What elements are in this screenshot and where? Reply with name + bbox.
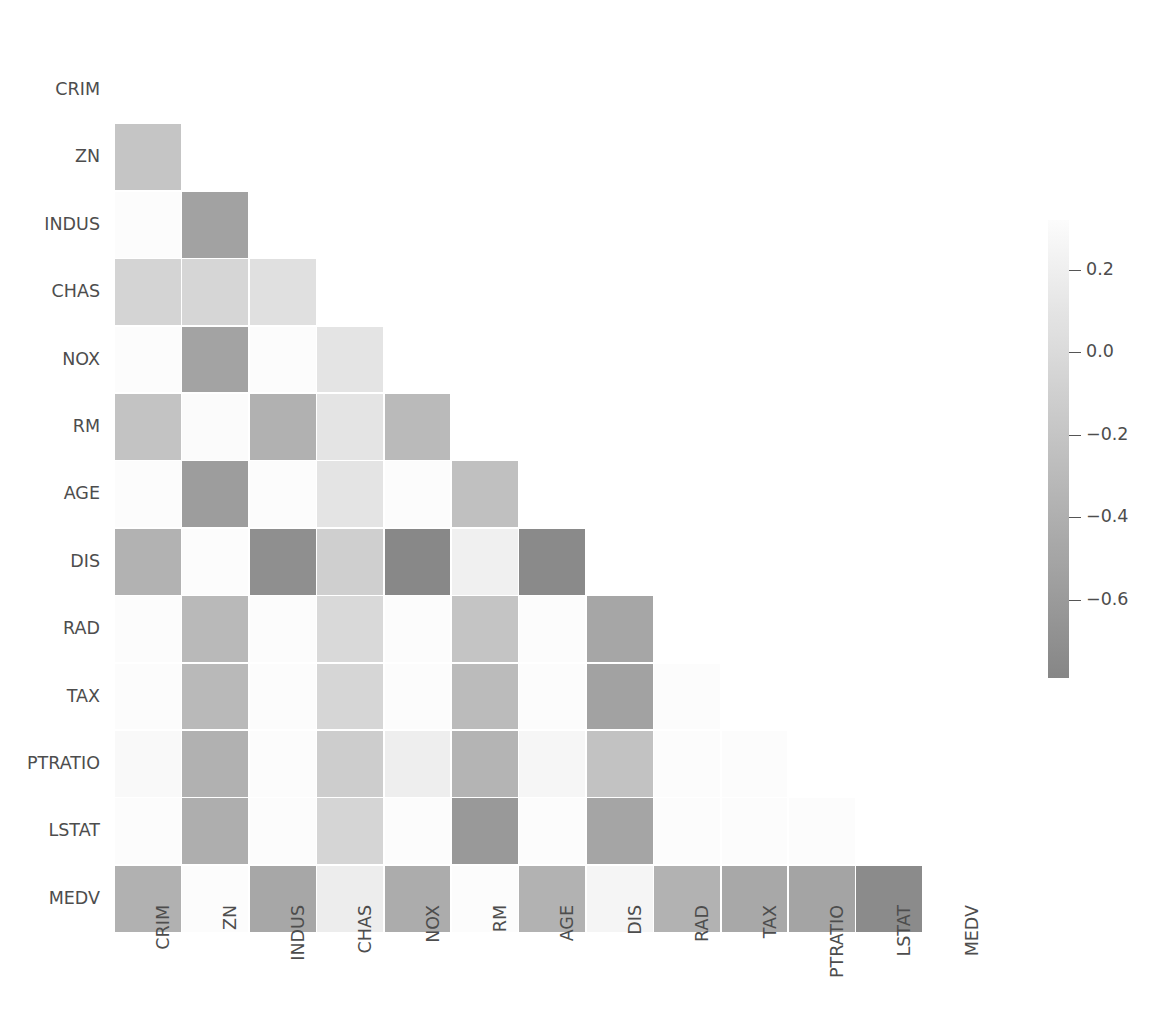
- heatmap-cell: [250, 394, 316, 460]
- heatmap-cell: [519, 798, 585, 864]
- heatmap-cell: [385, 596, 451, 662]
- heatmap-cell: [182, 596, 248, 662]
- heatmap-cell: [250, 664, 316, 730]
- x-axis-tick-label: AGE: [559, 905, 577, 941]
- heatmap-cell: [385, 798, 451, 864]
- x-axis-tick-label-text: TAX: [762, 905, 780, 938]
- heatmap-cell: [587, 798, 653, 864]
- heatmap-cell: [722, 798, 788, 864]
- colorbar: 0.20.0−0.2−0.4−0.6: [1048, 220, 1069, 678]
- heatmap-cell: [182, 529, 248, 595]
- heatmap-cell: [182, 394, 248, 460]
- x-axis-tick-label: CRIM: [155, 905, 173, 950]
- heatmap-cell: [115, 124, 181, 190]
- x-axis-tick-label-text: CHAS: [357, 905, 375, 953]
- x-axis-tick-label: RAD: [694, 905, 712, 942]
- heatmap-cell: [385, 664, 451, 730]
- heatmap-cell: [789, 798, 855, 864]
- heatmap-cell: [250, 731, 316, 797]
- y-axis-tick-label: MEDV: [0, 890, 100, 908]
- colorbar-tick-mark: [1069, 352, 1081, 353]
- y-axis-tick-label: LSTAT: [0, 822, 100, 840]
- y-axis-tick-label: TAX: [0, 688, 100, 706]
- y-axis-tick-label: DIS: [0, 553, 100, 571]
- x-axis-tick-label: DIS: [627, 905, 645, 935]
- colorbar-tick-mark: [1069, 517, 1081, 518]
- heatmap-cell: [317, 596, 383, 662]
- heatmap-cell: [115, 394, 181, 460]
- heatmap-cell: [182, 259, 248, 325]
- x-axis-tick-label: MEDV: [964, 905, 982, 956]
- correlation-heatmap-figure: CRIMZNINDUSCHASNOXRMAGEDISRADTAXPTRATIOL…: [0, 0, 1149, 1024]
- heatmap-cell: [587, 731, 653, 797]
- x-axis-tick-label-text: CRIM: [155, 905, 173, 950]
- colorbar-tick-label: 0.0: [1086, 343, 1114, 361]
- heatmap-cell: [452, 731, 518, 797]
- x-axis-tick-label: CHAS: [357, 905, 375, 953]
- y-axis-tick-label: NOX: [0, 351, 100, 369]
- y-axis-tick-label: INDUS: [0, 216, 100, 234]
- heatmap-cell: [317, 798, 383, 864]
- x-axis-tick-label: LSTAT: [896, 905, 914, 957]
- x-axis-tick-label-text: RAD: [694, 905, 712, 942]
- colorbar-tick-mark: [1069, 270, 1081, 271]
- colorbar-tick-label: −0.2: [1086, 426, 1129, 444]
- x-axis-tick-label-text: LSTAT: [896, 905, 914, 957]
- y-axis-tick-label: RAD: [0, 620, 100, 638]
- heatmap-cell: [385, 461, 451, 527]
- heatmap-cell: [317, 664, 383, 730]
- heatmap-cell: [250, 259, 316, 325]
- x-axis-tick-label-text: RM: [492, 905, 510, 932]
- heatmap-cell: [115, 327, 181, 393]
- x-axis-tick-label-text: MEDV: [964, 905, 982, 956]
- x-axis-tick-label-text: PTRATIO: [829, 905, 847, 978]
- x-axis-tick-label: RM: [492, 905, 510, 932]
- y-axis-tick-label: CRIM: [0, 81, 100, 99]
- heatmap-cell: [452, 529, 518, 595]
- heatmap-cell: [654, 798, 720, 864]
- heatmap-cell: [250, 529, 316, 595]
- heatmap-cell: [654, 731, 720, 797]
- x-axis-tick-label: TAX: [762, 905, 780, 938]
- colorbar-tick-label: −0.6: [1086, 591, 1129, 609]
- heatmap-cell: [182, 327, 248, 393]
- heatmap-cell: [115, 664, 181, 730]
- heatmap-cell: [317, 394, 383, 460]
- x-axis-tick-label-text: AGE: [559, 905, 577, 941]
- heatmap-cell: [115, 259, 181, 325]
- heatmap-cell: [519, 731, 585, 797]
- heatmap-cell: [317, 327, 383, 393]
- heatmap-cell: [182, 731, 248, 797]
- heatmap-cell: [722, 731, 788, 797]
- heatmap-cell: [250, 798, 316, 864]
- heatmap-grid: [115, 57, 991, 893]
- heatmap-cell: [250, 461, 316, 527]
- colorbar-tick-mark: [1069, 600, 1081, 601]
- heatmap-cell: [115, 731, 181, 797]
- x-axis-tick-label: INDUS: [290, 905, 308, 961]
- x-axis-tick-label-text: ZN: [222, 905, 240, 930]
- heatmap-cell: [182, 798, 248, 864]
- heatmap-cell: [115, 596, 181, 662]
- colorbar-tick-label: −0.4: [1086, 508, 1129, 526]
- heatmap-cell: [519, 529, 585, 595]
- heatmap-cell: [317, 731, 383, 797]
- y-axis-tick-label: RM: [0, 418, 100, 436]
- heatmap-cell: [317, 461, 383, 527]
- heatmap-cell: [250, 327, 316, 393]
- heatmap-cell: [452, 664, 518, 730]
- heatmap-cell: [452, 461, 518, 527]
- heatmap-cell: [385, 529, 451, 595]
- x-axis-tick-label: ZN: [222, 905, 240, 930]
- heatmap-cell: [385, 731, 451, 797]
- heatmap-cell: [115, 798, 181, 864]
- heatmap-cell: [587, 596, 653, 662]
- x-axis-tick-label-text: INDUS: [290, 905, 308, 961]
- heatmap-cell: [250, 596, 316, 662]
- x-axis-tick-label: PTRATIO: [829, 905, 847, 978]
- heatmap-cell: [519, 664, 585, 730]
- colorbar-gradient: [1048, 220, 1069, 678]
- y-axis-tick-label: ZN: [0, 148, 100, 166]
- y-axis-tick-label: CHAS: [0, 283, 100, 301]
- heatmap-cell: [587, 664, 653, 730]
